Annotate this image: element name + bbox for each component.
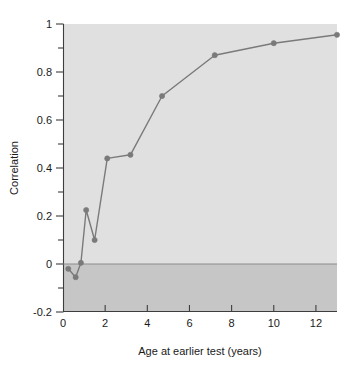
data-point-marker — [78, 260, 83, 265]
data-point-marker — [105, 156, 110, 161]
x-tick-label: 6 — [186, 317, 192, 329]
y-tick-label: 0 — [46, 258, 52, 270]
negative-region-shading — [63, 264, 337, 312]
data-point-marker — [159, 93, 164, 98]
x-tick-label: 12 — [310, 317, 322, 329]
x-tick-label: 8 — [229, 317, 235, 329]
data-point-marker — [271, 41, 276, 46]
y-tick-label: 0.4 — [37, 162, 52, 174]
y-tick-label: -0.2 — [33, 306, 52, 318]
y-tick-label: 0.2 — [37, 210, 52, 222]
y-tick-label: 1 — [46, 18, 52, 30]
y-axis-title: Correlation — [8, 141, 20, 195]
x-tick-label: 4 — [144, 317, 150, 329]
positive-region-shading — [63, 24, 337, 264]
data-point-marker — [73, 275, 78, 280]
data-point-marker — [66, 266, 71, 271]
data-point-marker — [92, 237, 97, 242]
data-point-marker — [212, 53, 217, 58]
data-point-marker — [334, 32, 339, 37]
x-axis-title: Age at earlier test (years) — [138, 345, 262, 357]
data-point-marker — [128, 152, 133, 157]
x-tick-label: 10 — [268, 317, 280, 329]
y-tick-label: 0.6 — [37, 114, 52, 126]
y-tick-label: 0.8 — [37, 66, 52, 78]
x-tick-label: 2 — [102, 317, 108, 329]
correlation-vs-age-chart: -0.200.20.40.60.81 024681012 Age at earl… — [0, 0, 356, 372]
data-point-marker — [84, 207, 89, 212]
x-tick-label: 0 — [60, 317, 66, 329]
